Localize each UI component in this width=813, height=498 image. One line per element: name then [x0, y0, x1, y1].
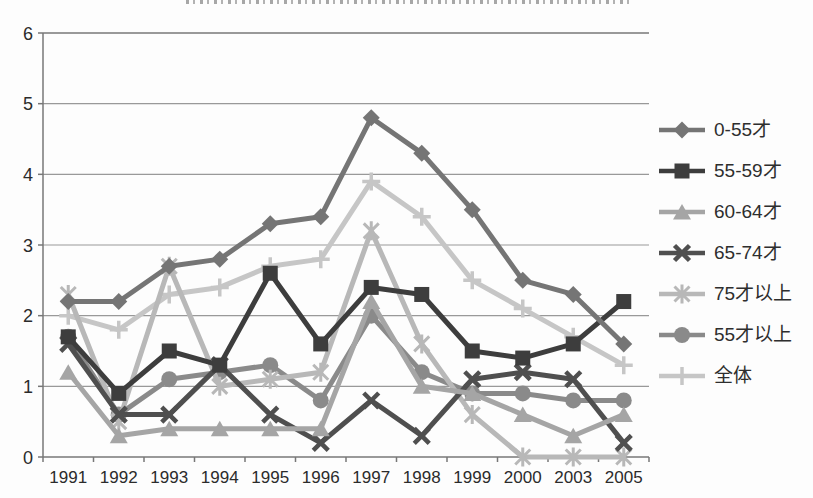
legend-label: 0-55才 [714, 119, 771, 141]
square-marker-icon [616, 294, 631, 309]
series-line [68, 118, 624, 344]
x-tick-label: 1999 [453, 468, 491, 487]
x-tick-label: 1997 [352, 468, 390, 487]
x-tick-label: 2000 [504, 468, 542, 487]
y-tick-label: 3 [23, 236, 33, 256]
legend-item: 0-55才 [657, 119, 792, 141]
plus-series-icon [657, 365, 707, 387]
circle-marker-icon [616, 392, 632, 408]
plus-marker-icon [673, 367, 691, 385]
circle-marker-icon [515, 385, 531, 401]
y-tick-label: 6 [23, 24, 33, 44]
legend-item: 55-59才 [657, 160, 792, 182]
square-marker-icon [675, 164, 690, 179]
legend-item: 60-64才 [657, 201, 792, 223]
legend-item: 75才以上 [657, 283, 792, 305]
legend-label: 60-64才 [714, 201, 782, 223]
circle-series-icon [657, 324, 707, 346]
asterisk-marker-icon [414, 334, 429, 353]
x-tick-label: 1998 [403, 468, 441, 487]
y-tick-label: 0 [23, 448, 33, 468]
asterisk-marker-icon [364, 221, 379, 240]
x-tick-label: 1994 [201, 468, 239, 487]
square-marker-icon [111, 386, 126, 401]
legend-item: 65-74才 [657, 242, 792, 264]
x-marker-icon [414, 428, 429, 443]
x-tick-label: 2005 [605, 468, 643, 487]
x-series-icon [657, 242, 707, 264]
square-marker-icon [515, 351, 530, 366]
square-marker-icon [364, 280, 379, 295]
circle-marker-icon [674, 327, 690, 343]
x-marker-icon [364, 393, 379, 408]
asterisk-marker-icon [465, 405, 480, 424]
x-marker-icon [263, 407, 278, 422]
square-marker-icon [162, 344, 177, 359]
legend-label: 65-74才 [714, 242, 782, 264]
triangle-series-icon [657, 201, 707, 223]
series-line [68, 181, 624, 365]
x-tick-label: 1992 [100, 468, 138, 487]
x-tick-label: 1993 [150, 468, 188, 487]
y-tick-label: 5 [23, 94, 33, 114]
asterisk-series-icon [657, 283, 707, 305]
legend-label: 75才以上 [714, 283, 792, 305]
x-tick-label: 1991 [49, 468, 87, 487]
circle-marker-icon [161, 371, 177, 387]
legend-label: 全体 [714, 365, 752, 387]
square-marker-icon [212, 358, 227, 373]
square-series-icon [657, 160, 707, 182]
legend-item: 55才以上 [657, 324, 792, 346]
chart-page: 0123456199119921993199419951996199719981… [0, 0, 813, 498]
x-marker-icon [313, 435, 328, 450]
x-tick-label: 2003 [554, 468, 592, 487]
legend-item: 全体 [657, 365, 792, 387]
square-marker-icon [414, 287, 429, 302]
y-tick-label: 2 [23, 306, 33, 326]
diamond-marker-icon [674, 122, 691, 139]
circle-marker-icon [565, 392, 581, 408]
x-tick-label: 1995 [251, 468, 289, 487]
x-tick-label: 1996 [302, 468, 340, 487]
legend-label: 55才以上 [714, 324, 792, 346]
legend-label: 55-59才 [714, 160, 782, 182]
triangle-marker-icon [59, 364, 77, 380]
triangle-marker-icon [615, 407, 633, 423]
square-marker-icon [61, 329, 76, 344]
square-marker-icon [465, 344, 480, 359]
plus-marker-icon [211, 278, 229, 296]
circle-marker-icon [313, 392, 329, 408]
square-marker-icon [313, 336, 328, 351]
diamond-series-icon [657, 119, 707, 141]
legend: 0-55才 55-59才 60-64才 65-74才 75才以上 55才以上 全… [657, 119, 792, 387]
diamond-marker-icon [312, 208, 329, 225]
y-tick-label: 1 [23, 377, 33, 397]
square-marker-icon [566, 336, 581, 351]
square-marker-icon [263, 266, 278, 281]
y-tick-label: 4 [23, 165, 33, 185]
